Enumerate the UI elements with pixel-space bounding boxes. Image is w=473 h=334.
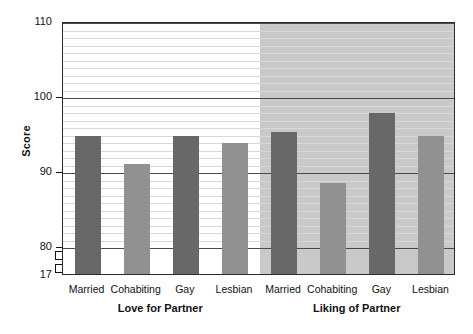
gridline-minor <box>63 68 454 69</box>
x-group-label-love-for-partner: Love for Partner <box>62 303 259 314</box>
gridline-minor <box>63 143 454 144</box>
x-group-label-liking-of-partner: Liking of Partner <box>259 303 456 314</box>
bar-liking-of-partner-gay <box>369 113 395 275</box>
y-tick-label-90: 90 <box>18 166 52 177</box>
bar-liking-of-partner-married <box>271 132 297 275</box>
y-tick-label-110: 110 <box>18 16 52 27</box>
gridline-minor <box>63 121 454 122</box>
gridline-minor <box>63 188 454 189</box>
gridline-minor <box>63 31 454 32</box>
gridline-minor <box>63 46 454 47</box>
gridline-minor <box>63 61 454 62</box>
gridline-minor <box>63 203 454 204</box>
bar-love-for-partner-cohabiting <box>124 164 150 275</box>
gridline-minor <box>63 241 454 242</box>
bar-liking-of-partner-lesbian <box>418 136 444 276</box>
gridline-minor <box>63 106 454 107</box>
gridline-minor <box>63 53 454 54</box>
gridline-major <box>63 23 454 24</box>
bar-love-for-partner-lesbian <box>222 143 248 275</box>
gridline-minor <box>63 136 454 137</box>
bar-love-for-partner-married <box>75 136 101 276</box>
bar-liking-of-partner-cohabiting <box>320 183 346 275</box>
y-tick-label-100: 100 <box>18 91 52 102</box>
gridline-minor <box>63 211 454 212</box>
gridline-minor <box>63 38 454 39</box>
gridline-minor <box>63 181 454 182</box>
gridline-minor <box>63 233 454 234</box>
y-tick-label-17: 17 <box>18 269 52 280</box>
gridline-minor <box>63 76 454 77</box>
gridline-minor <box>63 158 454 159</box>
gridline-minor <box>63 218 454 219</box>
gridline-minor <box>63 83 454 84</box>
gridline-major <box>63 248 454 249</box>
gridline-minor <box>63 196 454 197</box>
bar-love-for-partner-gay <box>173 136 199 276</box>
gridline-major <box>63 173 454 174</box>
gridline-major <box>63 98 454 99</box>
y-tick-label-80: 80 <box>18 241 52 252</box>
plot-area <box>62 22 455 275</box>
gridline-minor <box>63 166 454 167</box>
x-tick-label-1-lesbian: Lesbian <box>390 284 470 295</box>
gridline-minor <box>63 151 454 152</box>
bar-chart: Score 178090100110 MarriedCohabitingGayL… <box>0 0 473 334</box>
gridline-minor <box>63 128 454 129</box>
gridline-minor <box>63 91 454 92</box>
gridline-minor <box>63 113 454 114</box>
gridline-minor <box>63 226 454 227</box>
